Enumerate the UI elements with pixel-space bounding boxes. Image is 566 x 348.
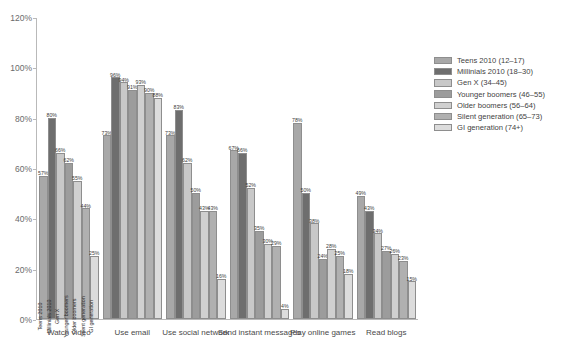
legend-swatch	[434, 90, 452, 98]
bar-slot: 78%	[293, 18, 302, 319]
bar-slot: 30%	[264, 18, 273, 319]
bar-slot: 57%Teens 2010	[39, 18, 48, 319]
bar-slot: 83%	[175, 18, 184, 319]
bar[interactable]: 91%	[128, 90, 137, 319]
bar[interactable]: 27%	[382, 251, 391, 319]
legend-item[interactable]: Silent generation (65–73)	[434, 112, 545, 121]
bar-slot: 38%	[310, 18, 319, 319]
bar-slot: 55%Older boomers	[73, 18, 82, 319]
y-axis-tick-label: 80%	[15, 114, 32, 124]
bar[interactable]: 62%Younger boomers	[65, 163, 74, 319]
x-axis-category-label: Read blogs	[366, 328, 406, 337]
bar-slot: 4%	[281, 18, 290, 319]
bar[interactable]: 28%	[327, 249, 336, 319]
legend-label: Older boomers (56–64)	[457, 101, 536, 110]
legend-item[interactable]: Millinials 2010 (18–30)	[434, 67, 545, 76]
bar-group: 78%50%38%24%28%25%18%Play online games	[291, 18, 355, 319]
y-axis-tick-label: 120%	[10, 13, 32, 23]
y-axis-tick-label: 40%	[15, 214, 32, 224]
bar-chart: 0%20%40%60%80%100%120% 57%Teens 201080%M…	[0, 0, 566, 348]
bar[interactable]: 49%	[357, 196, 366, 319]
bar[interactable]: 78%	[293, 123, 302, 319]
y-axis-tick-mark	[33, 119, 36, 120]
bar[interactable]: 66%	[238, 153, 247, 319]
bar-series-label: Teens 2010	[38, 302, 43, 330]
bar[interactable]: 50%	[192, 193, 201, 319]
bar-slot: 62%Younger boomers	[65, 18, 74, 319]
bar-slot: 26%	[391, 18, 400, 319]
bar[interactable]: 38%	[310, 223, 319, 319]
bar[interactable]: 25%GI generation	[90, 256, 99, 319]
legend-label: Silent generation (65–73)	[457, 112, 542, 121]
legend-item[interactable]: Gen X (34–45)	[434, 78, 545, 87]
legend-item[interactable]: Teens 2010 (12–17)	[434, 56, 545, 65]
bar-group: 57%Teens 201080%Millinials 201066%Gen X6…	[37, 18, 101, 319]
bar-slot: 80%Millinials 2010	[48, 18, 57, 319]
bar-slot: 23%	[399, 18, 408, 319]
bar-slot: 96%	[111, 18, 120, 319]
legend-item[interactable]: Older boomers (56–64)	[434, 101, 545, 110]
bar[interactable]: 73%	[103, 135, 112, 319]
bar-value-label: 88%	[153, 93, 163, 98]
legend-label: Gen X (34–45)	[457, 78, 507, 87]
bar[interactable]: 30%	[264, 244, 273, 320]
bar[interactable]: 35%	[255, 231, 264, 319]
bar[interactable]: 43%	[209, 211, 218, 319]
bar[interactable]: 62%	[183, 163, 192, 319]
bar[interactable]: 29%	[272, 246, 281, 319]
bar-slot: 50%	[192, 18, 201, 319]
y-axis-tick-mark	[33, 320, 36, 321]
bar-value-label: 16%	[216, 274, 226, 279]
bar[interactable]: 18%	[344, 274, 353, 319]
bar[interactable]: 50%	[302, 193, 311, 319]
bar[interactable]: 25%	[336, 256, 345, 319]
bar-group: 73%83%62%50%43%43%16%Use social network	[164, 18, 228, 319]
bar-slot: 44%Silent generation	[82, 18, 91, 319]
bar[interactable]: 26%	[391, 254, 400, 319]
bar[interactable]: 4%	[281, 309, 290, 319]
bar-slot: 66%Gen X	[56, 18, 65, 319]
bar[interactable]: 57%Teens 2010	[39, 176, 48, 319]
legend: Teens 2010 (12–17)Millinials 2010 (18–30…	[434, 56, 545, 132]
bar[interactable]: 15%	[408, 281, 417, 319]
bar[interactable]: 23%	[399, 261, 408, 319]
bar-slot: 43%	[365, 18, 374, 319]
y-axis-tick-label: 20%	[15, 265, 32, 275]
bar[interactable]: 24%	[319, 259, 328, 319]
y-axis-tick-mark	[33, 68, 36, 69]
bar[interactable]: 52%	[247, 188, 256, 319]
bar[interactable]: 93%	[137, 85, 146, 319]
bar[interactable]: 66%Gen X	[56, 153, 65, 319]
bar[interactable]: 90%	[145, 93, 154, 320]
bar[interactable]: 43%	[200, 211, 209, 319]
bar-slot: 28%	[327, 18, 336, 319]
bar-slot: 93%	[137, 18, 146, 319]
bar-slot: 62%	[183, 18, 192, 319]
bar[interactable]: 67%	[230, 150, 239, 319]
bar-slot: 18%	[344, 18, 353, 319]
legend-item[interactable]: Younger boomers (46–55)	[434, 90, 545, 99]
bar-slot: 50%	[302, 18, 311, 319]
bar[interactable]: 73%	[166, 135, 175, 319]
bar-groups: 57%Teens 201080%Millinials 201066%Gen X6…	[37, 18, 418, 319]
x-axis-category-label: Watch video	[47, 328, 91, 337]
bar[interactable]: 83%	[175, 110, 184, 319]
bar[interactable]: 88%	[154, 98, 163, 319]
bar-slot: 35%	[255, 18, 264, 319]
legend-label: Millinials 2010 (18–30)	[457, 67, 533, 76]
legend-label: GI generation (74+)	[457, 123, 523, 132]
bar[interactable]: 94%	[120, 82, 129, 319]
y-axis-tick-label: 60%	[15, 164, 32, 174]
bar-slot: 90%	[145, 18, 154, 319]
bar-slot: 67%	[230, 18, 239, 319]
bar-slot: 88%	[154, 18, 163, 319]
bar-slot: 24%	[319, 18, 328, 319]
bar-slot: 94%	[120, 18, 129, 319]
y-axis-tick-mark	[33, 169, 36, 170]
plot-area: 0%20%40%60%80%100%120% 57%Teens 201080%M…	[36, 18, 418, 320]
bar-slot: 27%	[382, 18, 391, 319]
bar[interactable]: 16%	[217, 279, 226, 319]
y-axis-tick-label: 0%	[20, 315, 32, 325]
bar[interactable]: 96%	[111, 77, 120, 319]
legend-item[interactable]: GI generation (74+)	[434, 123, 545, 132]
